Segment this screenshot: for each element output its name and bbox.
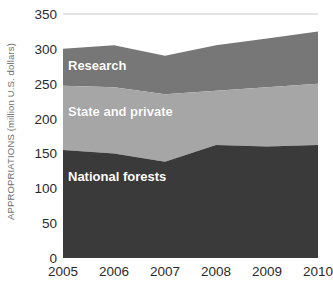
y-tick-label: 350: [34, 7, 57, 22]
x-tick-label: 2010: [303, 264, 333, 279]
series-label-state-and-private: State and private: [68, 104, 173, 119]
y-tick-label: 150: [34, 146, 57, 161]
y-axis-title-container: APPROPRIATIONS (million U.S. dollars): [0, 0, 20, 262]
x-tick-label: 2007: [150, 264, 180, 279]
y-tick-label: 100: [34, 181, 57, 196]
x-tick-label: 2005: [48, 264, 78, 279]
y-axis-title: APPROPRIATIONS (million U.S. dollars): [5, 43, 16, 220]
y-tick-label: 50: [42, 216, 57, 231]
stacked-area-svg: [63, 0, 318, 262]
x-tick-label: 2008: [201, 264, 231, 279]
y-tick-label: 200: [34, 111, 57, 126]
y-axis-tick-labels: 050100150200250300350: [20, 0, 60, 293]
x-axis-tick-labels: 200520062007200820092010: [63, 264, 318, 288]
area-national-forests: [63, 145, 318, 258]
x-tick-label: 2006: [99, 264, 129, 279]
y-tick-label: 300: [34, 41, 57, 56]
series-label-research: Research: [68, 58, 127, 73]
y-tick-label: 250: [34, 76, 57, 91]
x-tick-label: 2009: [252, 264, 282, 279]
plot-area: [63, 0, 318, 262]
series-label-national-forests: National forests: [68, 169, 166, 184]
